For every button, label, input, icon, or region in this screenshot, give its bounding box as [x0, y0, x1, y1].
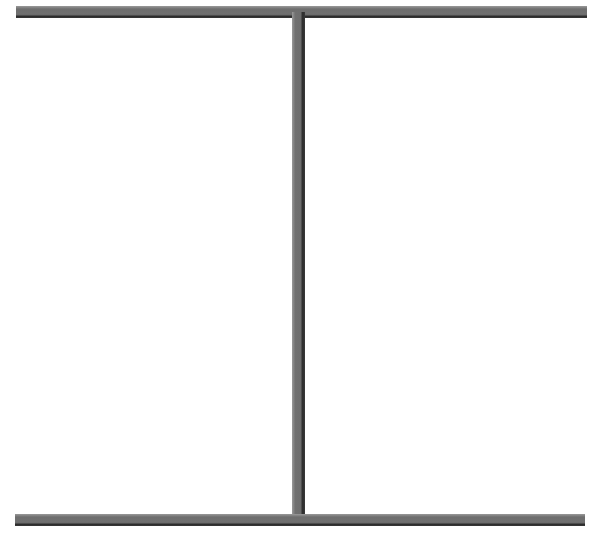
vertical-post	[292, 12, 305, 520]
bottom-bar	[15, 514, 585, 526]
